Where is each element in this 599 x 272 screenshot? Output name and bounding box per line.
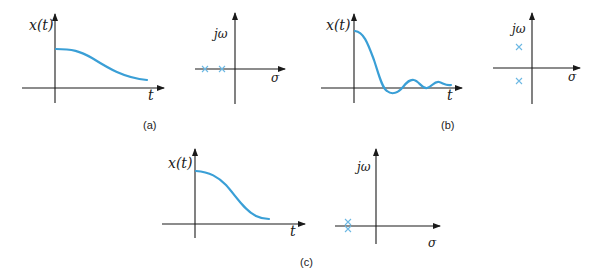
panel-b-time-plot: x(t) t [321,14,462,103]
panel-c-xlabel: t [290,223,296,239]
figure-canvas: x(t) t jω σ (a) x(t) t jω σ (b) x(t) t [0,0,599,272]
panel-b-ylabel: x(t) [326,17,350,33]
panel-c-s-plane: jω σ [335,149,440,250]
panel-c-caption: (c) [300,256,313,268]
panel-a-ylabel: x(t) [29,17,53,33]
panel-b-xlabel: t [447,87,453,103]
panel-b-jw-label: jω [509,22,526,36]
panel-c-signal-curve [196,171,269,219]
panel-c-jw-label: jω [354,160,371,174]
panel-a-signal-curve [56,49,147,80]
pole-marker [516,44,522,50]
panel-a-xlabel: t [148,87,154,103]
panel-a-time-plot: x(t) t [22,14,164,103]
pole-marker [516,78,522,84]
panel-b-sigma-label: σ [568,70,577,84]
panel-a-s-plane: jω σ [195,13,285,104]
panel-a-jw-label: jω [211,27,228,41]
panel-c-time-plot: x(t) t [162,149,305,239]
panel-c-ylabel: x(t) [168,155,192,171]
panel-a-caption: (a) [143,119,156,131]
panel-c-sigma-label: σ [428,236,437,250]
panel-b-caption: (b) [441,119,454,131]
panel-b-signal-curve [355,31,451,93]
panel-a-sigma-label: σ [271,71,280,85]
panel-b-s-plane: jω σ [493,13,580,104]
